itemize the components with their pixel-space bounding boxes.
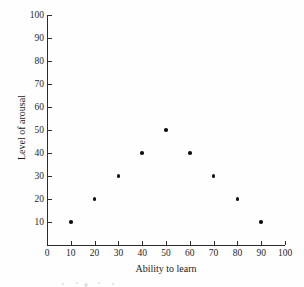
scatter-plot: 102030405060708090100 010203040506070809… <box>0 0 304 287</box>
scan-artifact <box>55 280 145 287</box>
y-tick-mark <box>48 176 52 177</box>
x-tick-mark <box>166 241 167 245</box>
data-point <box>140 151 144 155</box>
x-tick-label: 100 <box>274 248 296 258</box>
x-tick-mark <box>71 241 72 245</box>
data-point <box>188 151 192 155</box>
x-tick-label: 50 <box>155 248 177 258</box>
x-axis-title: Ability to learn <box>47 263 285 274</box>
x-tick-label: 30 <box>107 248 129 258</box>
data-point <box>212 174 216 178</box>
x-tick-label: 70 <box>203 248 225 258</box>
y-tick-mark <box>48 107 52 108</box>
x-tick-label: 10 <box>60 248 82 258</box>
y-tick-mark <box>48 84 52 85</box>
x-axis-line <box>47 245 285 246</box>
y-tick-mark <box>48 38 52 39</box>
x-tick-label: 90 <box>250 248 272 258</box>
data-point <box>164 128 168 132</box>
x-tick-label: 60 <box>179 248 201 258</box>
x-tick-mark <box>142 241 143 245</box>
y-tick-label: 100 <box>22 10 44 20</box>
y-tick-mark <box>48 61 52 62</box>
x-tick-mark <box>214 241 215 245</box>
y-tick-mark <box>48 199 52 200</box>
data-point <box>259 220 263 224</box>
x-tick-mark <box>285 241 286 245</box>
x-tick-mark <box>190 241 191 245</box>
y-tick-label: 10 <box>22 217 44 227</box>
x-tick-label: 80 <box>226 248 248 258</box>
x-tick-mark <box>118 241 119 245</box>
x-tick-label: 40 <box>131 248 153 258</box>
y-tick-mark <box>48 153 52 154</box>
y-tick-label: 90 <box>22 33 44 43</box>
data-point <box>236 197 240 201</box>
x-tick-mark <box>261 241 262 245</box>
data-point <box>69 220 73 224</box>
y-axis-title: Level of arousal <box>16 58 27 198</box>
data-point <box>93 197 97 201</box>
figure-container: 102030405060708090100 010203040506070809… <box>0 0 304 287</box>
y-tick-mark <box>48 130 52 131</box>
x-tick-label: 20 <box>84 248 106 258</box>
y-tick-mark <box>48 15 52 16</box>
x-tick-mark <box>237 241 238 245</box>
x-tick-label: 0 <box>36 248 58 258</box>
y-tick-mark <box>48 222 52 223</box>
data-point <box>117 174 121 178</box>
x-tick-mark <box>95 241 96 245</box>
